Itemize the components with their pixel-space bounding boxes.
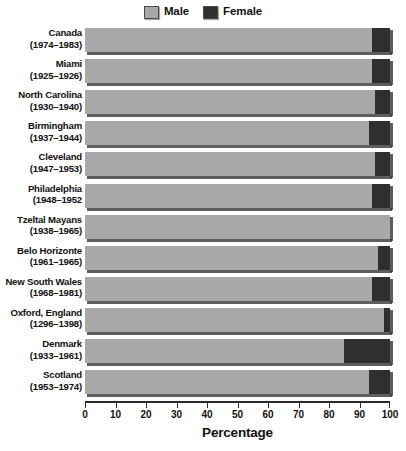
category-label-years: (1938–1965) bbox=[0, 225, 82, 237]
bar-row bbox=[85, 339, 390, 365]
x-axis-tick-label: 50 bbox=[232, 409, 243, 420]
x-axis-tick bbox=[207, 403, 208, 408]
bar-segment-male bbox=[85, 90, 375, 114]
bar-row bbox=[85, 90, 390, 116]
bar-drop-shadow bbox=[87, 270, 392, 273]
bar-segment-female bbox=[375, 152, 390, 176]
bar-right-shadow bbox=[390, 372, 393, 396]
bar-segment-male bbox=[85, 59, 372, 83]
category-label: Cleveland(1947–1953) bbox=[0, 151, 82, 174]
category-label-place: New South Wales bbox=[5, 276, 82, 287]
category-label-place: Belo Horizonte bbox=[17, 245, 82, 256]
bar-right-shadow bbox=[390, 341, 393, 365]
plot-area bbox=[85, 27, 390, 400]
x-axis-tick bbox=[329, 403, 330, 408]
bar-drop-shadow bbox=[87, 332, 392, 335]
category-label: New South Wales(1968–1981) bbox=[0, 276, 82, 299]
x-axis-title: Percentage bbox=[85, 425, 390, 440]
bar-segment-female bbox=[372, 277, 390, 301]
legend-entry-female: Female bbox=[203, 6, 262, 19]
legend-swatch-female-icon bbox=[203, 6, 218, 19]
bar-drop-shadow bbox=[87, 363, 392, 366]
category-label-place: Tzeltal Mayans bbox=[17, 214, 82, 225]
x-axis-tick-label: 70 bbox=[293, 409, 304, 420]
category-label: Canada(1974–1983) bbox=[0, 27, 82, 50]
bar-row bbox=[85, 59, 390, 85]
category-label-years: (1933–1961) bbox=[0, 350, 82, 362]
category-label-years: (1930–1940) bbox=[0, 101, 82, 113]
bar-row bbox=[85, 215, 390, 241]
category-label: Oxford, England(1296–1398) bbox=[0, 307, 82, 330]
category-label: Tzeltal Mayans(1938–1965) bbox=[0, 214, 82, 237]
category-label-place: Birmingham bbox=[28, 120, 82, 131]
bar-segment-female bbox=[369, 121, 390, 145]
x-axis: 0102030405060708090100 bbox=[85, 401, 390, 425]
bar-segment-male bbox=[85, 215, 390, 239]
bar-chart: MaleFemale Canada(1974–1983)Miami(1925–1… bbox=[0, 0, 406, 451]
category-label-years: (1947–1953) bbox=[0, 163, 82, 175]
category-label-years: (1961–1965) bbox=[0, 256, 82, 268]
legend-label: Female bbox=[223, 6, 262, 18]
bar-drop-shadow bbox=[87, 83, 392, 86]
bar-segment-male bbox=[85, 308, 384, 332]
bar-right-shadow bbox=[390, 310, 393, 334]
bar-drop-shadow bbox=[87, 301, 392, 304]
bar-drop-shadow bbox=[87, 145, 392, 148]
bar-right-shadow bbox=[390, 248, 393, 272]
x-axis-tick-label: 90 bbox=[354, 409, 365, 420]
bar-row bbox=[85, 370, 390, 396]
bar-segment-female bbox=[375, 90, 390, 114]
bar-segment-female bbox=[372, 28, 390, 52]
category-label-place: Miami bbox=[56, 58, 82, 69]
chart-legend: MaleFemale bbox=[0, 2, 406, 22]
bar-right-shadow bbox=[390, 279, 393, 303]
bar-right-shadow bbox=[390, 92, 393, 116]
category-label-place: Denmark bbox=[42, 338, 82, 349]
category-label-place: Philadelphia bbox=[28, 183, 82, 194]
x-axis-tick bbox=[146, 403, 147, 408]
bar-segment-female bbox=[384, 308, 390, 332]
category-label-years: (1296–1398) bbox=[0, 318, 82, 330]
category-label-years: (1937–1944) bbox=[0, 132, 82, 144]
category-label-years: (1953–1974) bbox=[0, 381, 82, 393]
category-label-years: (1974–1983) bbox=[0, 39, 82, 51]
bar-right-shadow bbox=[390, 123, 393, 147]
category-label-years: (1948–1952 bbox=[0, 194, 82, 206]
x-axis-tick bbox=[177, 403, 178, 408]
bar-drop-shadow bbox=[87, 52, 392, 55]
bar-segment-female bbox=[344, 339, 390, 363]
legend-entry-male: Male bbox=[144, 6, 189, 19]
bar-right-shadow bbox=[390, 154, 393, 178]
x-axis-tick-label: 40 bbox=[201, 409, 212, 420]
x-axis-tick bbox=[238, 403, 239, 408]
x-axis-tick-label: 100 bbox=[382, 409, 399, 420]
x-axis-tick-label: 0 bbox=[82, 409, 88, 420]
bar-drop-shadow bbox=[87, 208, 392, 211]
bar-segment-male bbox=[85, 28, 372, 52]
x-axis-tick bbox=[360, 403, 361, 408]
bar-segment-male bbox=[85, 184, 372, 208]
bar-segment-female bbox=[372, 59, 390, 83]
bar-drop-shadow bbox=[87, 394, 392, 397]
bar-segment-male bbox=[85, 370, 369, 394]
bar-right-shadow bbox=[390, 30, 393, 54]
bar-segment-female bbox=[378, 246, 390, 270]
x-axis-tick-label: 60 bbox=[262, 409, 273, 420]
category-label: Belo Horizonte(1961–1965) bbox=[0, 245, 82, 268]
bar-drop-shadow bbox=[87, 114, 392, 117]
x-axis-tick bbox=[389, 403, 390, 408]
bar-drop-shadow bbox=[87, 176, 392, 179]
bar-segment-male bbox=[85, 246, 378, 270]
category-label-place: Cleveland bbox=[38, 151, 82, 162]
x-axis-tick bbox=[299, 403, 300, 408]
category-label-years: (1925–1926) bbox=[0, 70, 82, 82]
category-label-place: Canada bbox=[49, 27, 82, 38]
bar-segment-male bbox=[85, 277, 372, 301]
bar-drop-shadow bbox=[87, 239, 392, 242]
bar-row bbox=[85, 308, 390, 334]
bar-row bbox=[85, 246, 390, 272]
bar-segment-male bbox=[85, 121, 369, 145]
bar-right-shadow bbox=[390, 217, 393, 241]
category-label: Scotland(1953–1974) bbox=[0, 369, 82, 392]
category-label-place: Oxford, England bbox=[10, 307, 82, 318]
